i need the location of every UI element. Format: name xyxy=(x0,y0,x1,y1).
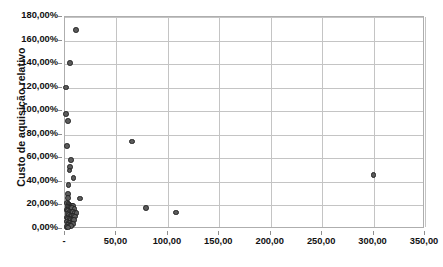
y-tick-label: 20,00% xyxy=(2,198,58,208)
plot-area xyxy=(64,16,424,228)
y-tick-label: 40,00% xyxy=(2,175,58,185)
y-tick-label: 60,00% xyxy=(2,151,58,161)
gridline-vertical xyxy=(374,17,375,227)
data-point xyxy=(65,225,71,231)
x-tick-mark xyxy=(167,231,168,235)
x-tick-label: 350,00 xyxy=(389,236,443,246)
x-tick-mark xyxy=(321,231,322,235)
y-tick-mark xyxy=(58,181,62,182)
data-point xyxy=(173,210,179,216)
x-tick-mark xyxy=(218,231,219,235)
data-point xyxy=(63,85,69,91)
x-tick-mark xyxy=(64,231,65,235)
y-tick-label: 0,00% xyxy=(2,222,58,232)
y-tick-mark xyxy=(58,134,62,135)
y-tick-label: 80,00% xyxy=(2,128,58,138)
gridline-vertical xyxy=(116,17,117,227)
data-point xyxy=(63,111,69,117)
gridline-vertical xyxy=(219,17,220,227)
gridline-horizontal xyxy=(65,88,423,89)
x-tick-mark xyxy=(373,231,374,235)
gridline-horizontal xyxy=(65,158,423,159)
y-axis-tick-labels: 0,00%20,00%40,00%60,00%80,00%100,00%120,… xyxy=(0,16,58,228)
data-point xyxy=(143,205,149,211)
figure-caption xyxy=(0,253,438,267)
y-tick-mark xyxy=(58,157,62,158)
y-tick-label: 180,00% xyxy=(2,10,58,20)
gridline-horizontal xyxy=(65,17,423,18)
y-tick-mark xyxy=(58,204,62,205)
gridline-horizontal xyxy=(65,111,423,112)
data-point xyxy=(77,196,83,202)
gridline-vertical xyxy=(322,17,323,227)
data-point xyxy=(71,175,77,181)
data-point xyxy=(64,143,70,149)
gridline-horizontal xyxy=(65,41,423,42)
y-tick-mark xyxy=(58,63,62,64)
data-point xyxy=(68,157,74,163)
gridline-horizontal xyxy=(65,205,423,206)
y-tick-label: 140,00% xyxy=(2,57,58,67)
data-point xyxy=(129,139,135,145)
x-tick-mark xyxy=(115,231,116,235)
data-point xyxy=(66,182,72,188)
y-tick-mark xyxy=(58,228,62,229)
y-tick-mark xyxy=(58,110,62,111)
gridline-vertical xyxy=(168,17,169,227)
x-tick-mark xyxy=(270,231,271,235)
x-axis-tick-labels: -50,00100,00150,00200,00250,00300,00350,… xyxy=(64,231,424,247)
data-point xyxy=(67,60,73,66)
data-point xyxy=(67,168,73,174)
y-tick-mark xyxy=(58,40,62,41)
data-point xyxy=(73,27,79,33)
gridline-horizontal xyxy=(65,135,423,136)
y-tick-label: 100,00% xyxy=(2,104,58,114)
gridline-vertical xyxy=(271,17,272,227)
y-tick-label: 160,00% xyxy=(2,34,58,44)
gridline-vertical xyxy=(425,17,426,227)
y-tick-mark xyxy=(58,87,62,88)
data-point xyxy=(371,172,377,178)
gridline-horizontal xyxy=(65,182,423,183)
x-tick-mark xyxy=(424,231,425,235)
y-tick-label: 120,00% xyxy=(2,81,58,91)
y-tick-mark xyxy=(58,16,62,17)
data-point xyxy=(65,118,71,124)
gridline-horizontal xyxy=(65,64,423,65)
